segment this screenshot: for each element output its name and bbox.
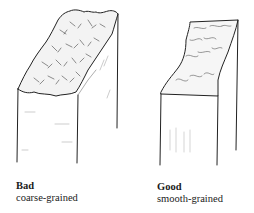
good-caption: Good smooth-grained: [157, 182, 223, 204]
smooth-grained-block: [160, 20, 238, 165]
bad-subtitle: coarse-grained: [16, 193, 78, 204]
good-subtitle: smooth-grained: [157, 194, 223, 205]
good-title: Good: [157, 182, 223, 193]
bad-caption: Bad coarse-grained: [16, 181, 78, 203]
bad-title: Bad: [16, 181, 78, 192]
coarse-grained-block: [17, 10, 118, 163]
